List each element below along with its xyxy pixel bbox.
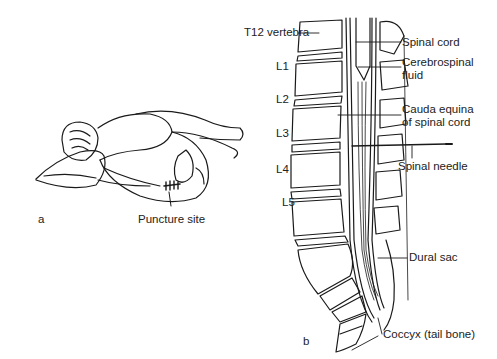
dural-sac-label: Dural sac	[409, 251, 458, 264]
vertebra-label-l1: L1	[276, 60, 289, 73]
lumbar-puncture-illustration	[0, 0, 497, 359]
spinal-needle-label: Spinal needle	[398, 160, 468, 173]
vertebra-label-l5: L5	[282, 196, 295, 209]
patient-figure	[36, 111, 243, 206]
t12-vertebra-label: T12 vertebra	[244, 26, 309, 39]
csf-label-line1: Cerebrospinal	[402, 56, 474, 69]
puncture-site-label: Puncture site	[138, 213, 205, 226]
vertebra-label-l3: L3	[276, 127, 289, 140]
coccyx-label: Coccyx (tail bone)	[383, 328, 475, 341]
panel-a-label: a	[38, 213, 44, 226]
panel-b-label: b	[303, 335, 309, 348]
vertebra-label-l4: L4	[276, 163, 289, 176]
cauda-equina-label-line2: of spinal cord	[402, 116, 470, 129]
csf-label-line2: fluid	[402, 69, 423, 82]
vertebra-label-l2: L2	[276, 93, 289, 106]
cauda-equina-label-line1: Cauda equina	[402, 103, 474, 116]
spinal-cord-label: Spinal cord	[402, 36, 460, 49]
leader-lines	[298, 33, 412, 350]
